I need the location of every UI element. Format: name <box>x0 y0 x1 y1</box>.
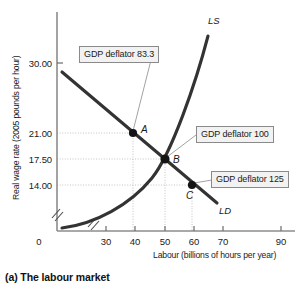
point-c-marker <box>188 181 196 189</box>
callout-gdp-deflator-83-3: GDP deflator 83.3 <box>79 46 159 63</box>
curve-label-ld: LD <box>219 205 231 216</box>
point-b-marker <box>160 154 169 163</box>
callout-gdp-deflator-100: GDP deflator 100 <box>196 126 274 143</box>
y-tick-label-14: 14.00 <box>8 180 52 191</box>
x-tick-label-40: 40 <box>123 236 147 247</box>
point-a-label: A <box>141 124 148 135</box>
labour-market-figure: Real wage rate (2005 pounds per hour) 30… <box>0 0 300 304</box>
grid-lines <box>57 133 192 231</box>
x-tick-label-70: 70 <box>211 236 235 247</box>
point-b-label: B <box>173 154 180 165</box>
x-tick-label-0: 0 <box>27 236 51 247</box>
leader-line-a <box>133 60 151 131</box>
curve-label-ls: LS <box>208 15 220 26</box>
point-a-marker <box>129 129 137 137</box>
x-tick-label-50: 50 <box>153 236 177 247</box>
y-tick-label-21: 21.00 <box>8 128 52 139</box>
x-tick-label-60: 60 <box>182 236 206 247</box>
point-c-label: C <box>186 190 193 201</box>
y-tick-label-30: 30.00 <box>8 58 52 69</box>
callout-gdp-deflator-125: GDP deflator 125 <box>211 171 289 188</box>
x-tick-label-30: 30 <box>94 236 118 247</box>
x-tick-label-90: 90 <box>269 236 293 247</box>
y-tick-label-17-5: 17.50 <box>8 154 52 165</box>
leader-line-c <box>194 180 212 183</box>
figure-caption: (a) The labour market <box>5 271 110 283</box>
x-axis-title: Labour (billions of hours per year) <box>153 250 276 260</box>
